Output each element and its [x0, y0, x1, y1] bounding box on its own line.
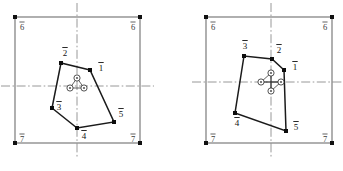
- label-text: 7: [131, 134, 135, 144]
- polygon-outline: [235, 56, 286, 131]
- cluster-node-center-2: [69, 87, 71, 89]
- label-text: 7: [211, 134, 215, 144]
- corner-bottom-left: 7: [19, 134, 24, 144]
- frame-corner-dot-1: [204, 15, 208, 19]
- label-text: 7: [20, 134, 24, 144]
- corner-bottom-right: 7: [130, 134, 135, 144]
- frame-corner-dot-4: [330, 141, 334, 145]
- label-text: 3: [57, 102, 62, 112]
- corner-top-left: 6: [19, 22, 24, 32]
- label-text: 2: [277, 45, 282, 55]
- vertex-label-5: 5: [293, 122, 298, 133]
- polygon-vertex-5: [284, 129, 288, 133]
- cluster-node-center-1: [270, 72, 272, 74]
- label-text: 6: [211, 22, 215, 32]
- polygon-outline: [52, 63, 114, 128]
- vertex-label-2: 2: [62, 48, 67, 59]
- label-text: 6: [323, 22, 327, 32]
- cluster-node-center-2: [260, 81, 262, 83]
- corner-top-left: 6: [210, 22, 215, 32]
- frame-corner-dot-4: [138, 141, 142, 145]
- frame-corner-dot-3: [13, 141, 17, 145]
- frame-corner-dot-3: [204, 141, 208, 145]
- center-cluster-diamond: [258, 70, 284, 94]
- frame-corner-dot-1: [13, 15, 17, 19]
- label-text: 4: [82, 131, 87, 141]
- cluster-node-center-3: [83, 87, 85, 89]
- vertex-label-1: 1: [292, 62, 297, 73]
- polygon-vertex-4: [75, 126, 79, 130]
- polygon-vertex-1: [88, 68, 92, 72]
- label-text: 7: [323, 134, 327, 144]
- frame-corner-dot-2: [330, 15, 334, 19]
- vertex-label-4: 4: [81, 131, 86, 142]
- frame-corner-dot-2: [138, 15, 142, 19]
- cluster-node-center-4: [270, 90, 272, 92]
- polygon-vertex-5: [112, 120, 116, 124]
- corner-bottom-left: 7: [210, 134, 215, 144]
- corner-bottom-right: 7: [322, 134, 327, 144]
- label-text: 6: [131, 22, 135, 32]
- label-text: 1: [293, 62, 298, 72]
- bounding-frame: [206, 17, 332, 143]
- label-text: 2: [63, 48, 68, 58]
- vertex-label-2: 2: [276, 45, 281, 56]
- vertex-label-3: 3: [242, 41, 247, 52]
- left-diagram: 123456677: [0, 0, 171, 171]
- label-text: 1: [99, 63, 104, 73]
- polygon-vertex-2: [270, 57, 274, 61]
- vertex-label-4: 4: [234, 118, 239, 129]
- right-diagram-canvas: 123456677: [171, 0, 342, 171]
- cluster-node-center-3: [280, 81, 282, 83]
- label-text: 6: [20, 22, 24, 32]
- left-diagram-canvas: 123456677: [0, 0, 171, 171]
- cluster-node-center-1: [76, 77, 78, 79]
- polygon-vertex-3: [50, 106, 54, 110]
- vertex-label-5: 5: [118, 109, 123, 120]
- polygon-vertex-2: [59, 61, 63, 65]
- right-diagram: 123456677: [171, 0, 342, 171]
- polygon-vertex-4: [233, 111, 237, 115]
- vertex-label-1: 1: [98, 63, 103, 74]
- corner-top-right: 6: [130, 22, 135, 32]
- label-text: 3: [243, 41, 248, 51]
- label-text: 5: [119, 109, 124, 119]
- label-text: 5: [294, 122, 299, 132]
- corner-top-right: 6: [322, 22, 327, 32]
- label-text: 4: [235, 118, 240, 128]
- polygon-vertex-3: [242, 54, 246, 58]
- vertex-label-3: 3: [56, 102, 61, 113]
- diagram-page: 123456677 123456677: [0, 0, 343, 171]
- polygon-vertex-1: [282, 68, 286, 72]
